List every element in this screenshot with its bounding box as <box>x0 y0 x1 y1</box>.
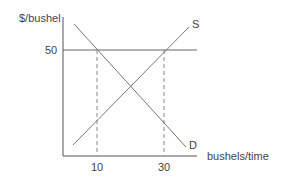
supply-curve <box>73 27 189 145</box>
y-axis-label: $/bushel <box>19 13 61 24</box>
supply-label: S <box>192 19 199 30</box>
y-tick-50: 50 <box>45 45 57 56</box>
demand-curve <box>74 24 186 147</box>
demand-label: D <box>189 140 197 151</box>
x-tick-10: 10 <box>91 162 103 173</box>
x-tick-30: 30 <box>158 162 170 173</box>
x-axis-label: bushels/time <box>207 151 269 162</box>
